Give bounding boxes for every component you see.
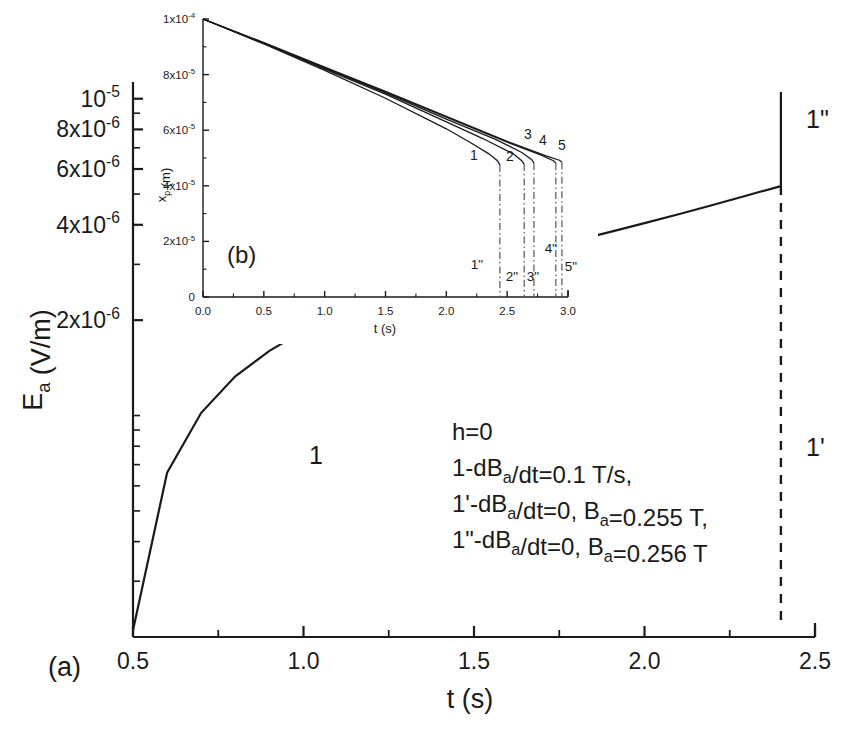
inset-x-tick-label: 0.0 bbox=[195, 305, 211, 317]
main-annotation-line: h=0 bbox=[452, 418, 493, 445]
inset-curve-label-4: 4 bbox=[539, 132, 547, 148]
inset-x-tick-label: 2.5 bbox=[499, 305, 515, 317]
inset-curve-label-5: 5 bbox=[558, 137, 566, 153]
main-y-tick-label: 2x10-6 bbox=[56, 305, 120, 334]
main-y-axis-title: Ea (V/m) bbox=[18, 309, 56, 411]
main-annotation-line: 1"-dBa/dt=0, Ba=0.256 T bbox=[452, 526, 708, 567]
main-y-tick-label: 10-5 bbox=[81, 83, 121, 112]
figure-svg: 0.51.01.52.02.52x10-64x10-66x10-68x10-61… bbox=[0, 0, 850, 736]
inset-curve-label-1: 1 bbox=[470, 147, 478, 163]
panel-b-label: (b) bbox=[227, 241, 256, 268]
inset-drop-label: 1" bbox=[471, 257, 484, 272]
inset-drop-label: 3" bbox=[527, 269, 540, 284]
main-x-tick-label: 1.5 bbox=[458, 648, 490, 674]
inset-y-tick-label: 0 bbox=[189, 291, 195, 303]
inset-drop-label: 5" bbox=[565, 259, 578, 274]
inset-panel-b: 0.00.51.01.52.02.53.002x10-54x10-56x10-5… bbox=[143, 0, 598, 344]
inset-x-tick-label: 1.0 bbox=[317, 305, 333, 317]
main-x-axis-title: t (s) bbox=[447, 684, 494, 714]
panel-a-label: (a) bbox=[48, 652, 81, 682]
main-x-tick-label: 2.5 bbox=[799, 648, 831, 674]
main-y-tick-label: 6x10-6 bbox=[56, 153, 120, 182]
inset-x-tick-label: 3.0 bbox=[560, 305, 576, 317]
main-curve-label-1: 1 bbox=[309, 441, 323, 469]
inset-background bbox=[143, 0, 598, 344]
main-x-tick-label: 2.0 bbox=[629, 648, 661, 674]
main-annotation-line: 1-dBa/dt=0.1 T/s, bbox=[452, 454, 632, 488]
inset-curve-label-3: 3 bbox=[524, 126, 532, 142]
inset-x-axis-title: t (s) bbox=[374, 321, 396, 336]
inset-x-tick-label: 0.5 bbox=[256, 305, 272, 317]
inset-x-tick-label: 1.5 bbox=[378, 305, 394, 317]
main-x-tick-label: 0.5 bbox=[117, 648, 149, 674]
main-x-tick-label: 1.0 bbox=[288, 648, 320, 674]
inset-x-tick-label: 2.0 bbox=[438, 305, 454, 317]
inset-drop-label: 2" bbox=[506, 269, 519, 284]
main-curve-label-1-dprime: 1" bbox=[806, 105, 829, 133]
main-annotation-block: h=01-dBa/dt=0.1 T/s,1'-dBa/dt=0, Ba=0.25… bbox=[452, 418, 708, 567]
main-y-tick-label: 4x10-6 bbox=[56, 209, 120, 238]
figure-container: 0.51.01.52.02.52x10-64x10-66x10-68x10-61… bbox=[0, 0, 850, 736]
inset-drop-label: 4" bbox=[545, 241, 558, 256]
main-curve-label-1-prime: 1' bbox=[806, 433, 825, 461]
main-y-tick-label: 8x10-6 bbox=[56, 114, 120, 143]
inset-curve-label-2: 2 bbox=[506, 148, 514, 164]
